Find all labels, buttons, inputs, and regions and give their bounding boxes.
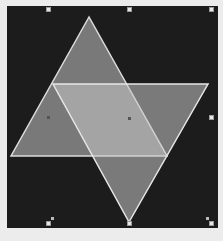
rotation-handle[interactable] xyxy=(51,217,54,220)
shape-layer xyxy=(0,0,223,241)
resize-handle[interactable] xyxy=(209,7,214,12)
resize-handle[interactable] xyxy=(127,7,132,12)
resize-handle[interactable] xyxy=(209,115,214,120)
resize-handle[interactable] xyxy=(46,7,51,12)
center-marker xyxy=(128,117,131,120)
resize-handle[interactable] xyxy=(209,221,214,226)
center-marker xyxy=(47,116,50,119)
resize-handle[interactable] xyxy=(46,221,51,226)
rotation-handle[interactable] xyxy=(206,217,209,220)
resize-handle[interactable] xyxy=(127,221,132,226)
